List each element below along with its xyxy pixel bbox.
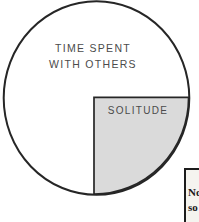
others-slice-label-line1: TIME SPENT (28, 41, 158, 57)
others-slice-label: TIME SPENT WITH OTHERS (28, 41, 158, 72)
pie-chart-figure: TIME SPENT WITH OTHERS SOLITUDE No so (0, 0, 199, 222)
note-box-text-line2: so (188, 200, 199, 215)
note-box: No so (184, 168, 199, 222)
note-box-text-line1: No (188, 185, 199, 200)
solitude-slice-label: SOLITUDE (105, 105, 171, 116)
others-slice-label-line2: WITH OTHERS (28, 57, 158, 73)
